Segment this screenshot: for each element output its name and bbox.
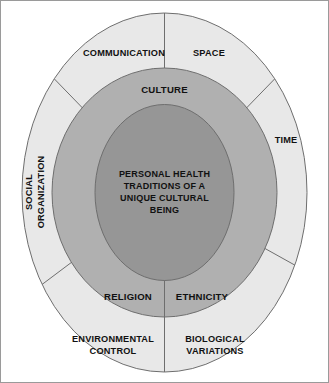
outer-label-biological-variations-line2: VARIATIONS bbox=[186, 346, 243, 356]
outer-label-space: SPACE bbox=[193, 48, 225, 58]
outer-label-social-organization-line2: ORGANIZATION bbox=[36, 156, 46, 229]
diagram-canvas: COMMUNICATION SPACE TIME BIOLOGICAL VARI… bbox=[0, 0, 329, 383]
core-label-line1: PERSONAL HEALTH bbox=[119, 169, 210, 179]
core-label-line2: TRADITIONS OF A bbox=[124, 181, 206, 191]
outer-label-biological-variations-line1: BIOLOGICAL bbox=[185, 334, 245, 344]
outer-label-time: TIME bbox=[275, 135, 298, 145]
middle-label-culture: CULTURE bbox=[141, 84, 188, 95]
cultural-heritage-diagram: COMMUNICATION SPACE TIME BIOLOGICAL VARI… bbox=[0, 0, 329, 383]
outer-label-social-organization-line1: SOCIAL bbox=[24, 174, 34, 210]
outer-label-environmental-control-line1: ENVIRONMENTAL bbox=[72, 334, 154, 344]
outer-label-environmental-control-line2: CONTROL bbox=[90, 346, 137, 356]
middle-label-ethnicity: ETHNICITY bbox=[176, 291, 229, 302]
outer-label-communication: COMMUNICATION bbox=[83, 48, 165, 58]
middle-label-religion: RELIGION bbox=[104, 291, 152, 302]
core-label-line4: BEING bbox=[150, 205, 180, 215]
core-label-line3: UNIQUE CULTURAL bbox=[120, 193, 209, 203]
